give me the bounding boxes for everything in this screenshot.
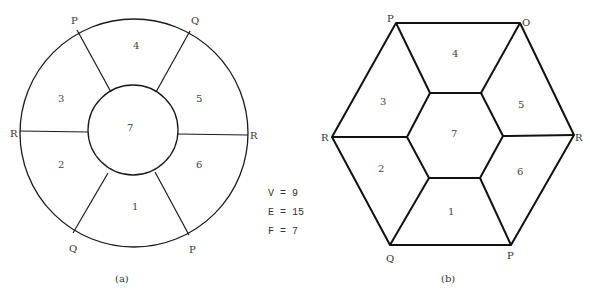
face-label: 1 [448, 206, 454, 217]
face-label: 5 [518, 99, 524, 110]
vertex-label: Q [386, 253, 394, 264]
edge-p-bottom [155, 172, 189, 235]
edge-r-left [20, 131, 88, 132]
vertex-label: R [575, 132, 583, 143]
face-label: 7 [451, 128, 457, 139]
edge-r-right [503, 135, 574, 136]
vertex-label: P [71, 15, 78, 26]
face-label: 1 [132, 201, 138, 212]
caption-b: (b) [441, 273, 455, 284]
face-label: 3 [380, 96, 386, 107]
euler-stats: V = 9 E = 15 F = 7 [268, 184, 304, 241]
edge-q-bottom [73, 173, 108, 233]
face-label: 4 [133, 40, 139, 51]
face-label: 5 [196, 93, 202, 104]
vertex-label: R [321, 132, 329, 143]
face-label: 6 [196, 159, 202, 170]
vertex-label: Q [69, 243, 77, 254]
outer-circle [20, 19, 248, 247]
diagram-a [20, 19, 248, 247]
vertex-label: R [10, 128, 18, 139]
edge-p-top [77, 30, 111, 92]
graph-figure: P Q R R Q P 4 3 5 7 2 6 1 (a) P O R R Q … [0, 0, 590, 293]
face-label: 7 [127, 122, 133, 133]
diagram-a-labels: P Q R R Q P 4 3 5 7 2 6 1 (a) [10, 15, 258, 284]
face-label: 4 [452, 48, 458, 59]
edge-q-bottom [390, 178, 429, 245]
vertex-label: R [250, 130, 258, 141]
vertex-count: V = 9 [268, 184, 304, 203]
edge-q-top [481, 23, 520, 93]
edge-p-bottom [480, 178, 511, 245]
face-label: 3 [58, 93, 64, 104]
vertex-label: O [522, 17, 530, 28]
vertex-label: P [507, 250, 514, 261]
face-label: 6 [517, 166, 523, 177]
diagram-b-labels: P O R R Q P 4 3 5 7 2 6 1 (b) [321, 13, 583, 284]
face-label: 2 [378, 163, 384, 174]
face-count: F = 7 [268, 222, 304, 241]
vertex-label: P [189, 244, 196, 255]
face-label: 2 [58, 159, 64, 170]
edge-r-right [178, 134, 248, 135]
vertex-label: P [387, 13, 394, 24]
caption-a: (a) [115, 273, 129, 284]
edge-count: E = 15 [268, 203, 304, 222]
vertex-label: Q [191, 15, 199, 26]
edge-p-top [396, 23, 430, 93]
edge-q-top [156, 31, 190, 92]
